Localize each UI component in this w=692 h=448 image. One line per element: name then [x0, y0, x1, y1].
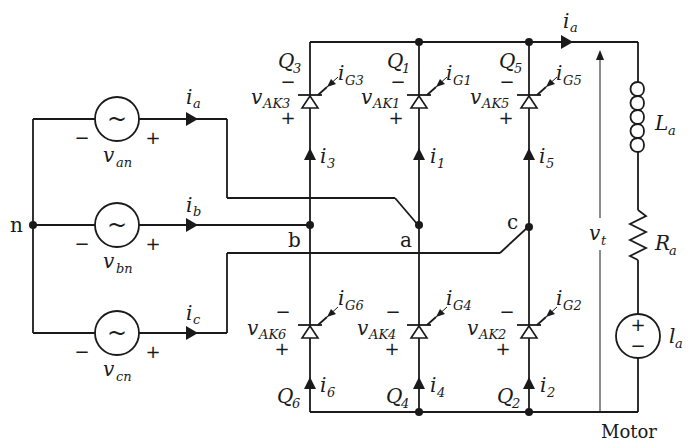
sine-wave-icon: ~ — [107, 105, 127, 133]
node-c-dot — [525, 223, 533, 231]
thyristor-q5: Q 5 i G5 − v AK5 + i 5 — [470, 49, 582, 171]
source-vcn: ~ − + v cn i c — [74, 301, 201, 384]
thyristor-icon — [411, 326, 427, 338]
thyristor-icon — [521, 96, 537, 108]
svg-text:G2: G2 — [563, 298, 582, 313]
svg-text:i: i — [556, 61, 562, 85]
svg-text:R: R — [654, 231, 670, 255]
svg-text:v: v — [103, 143, 115, 167]
svg-text:a: a — [675, 336, 683, 351]
svg-text:i: i — [446, 61, 452, 85]
svg-text:Q: Q — [497, 384, 513, 408]
sine-wave-icon: ~ — [107, 211, 127, 239]
svg-text:+: + — [495, 338, 510, 359]
svg-text:−: − — [275, 301, 290, 322]
junction-dot — [415, 38, 423, 46]
svg-text:i: i — [320, 144, 326, 168]
current-arrow-icon — [186, 326, 198, 340]
svg-text:+: + — [498, 107, 513, 128]
svg-text:c: c — [193, 312, 201, 327]
neutral-node-label: n — [10, 213, 23, 237]
svg-text:4: 4 — [436, 385, 445, 400]
current-arrow-icon — [523, 377, 535, 389]
svg-text:i: i — [540, 373, 546, 397]
svg-text:−: − — [74, 341, 89, 362]
sine-wave-icon: ~ — [107, 319, 127, 347]
source-vbn: ~ − + v bn i b — [74, 193, 201, 276]
svg-text:i: i — [338, 286, 344, 310]
svg-text:v: v — [361, 85, 373, 109]
svg-text:Q: Q — [386, 384, 402, 408]
node-b-dot — [306, 221, 314, 229]
node-c-label: c — [507, 210, 518, 234]
node-a-dot — [415, 221, 423, 229]
svg-text:−: − — [74, 233, 89, 254]
svg-text:G5: G5 — [563, 73, 582, 88]
svg-text:a: a — [669, 243, 677, 258]
svg-text:Q: Q — [499, 49, 515, 73]
svg-text:−: − — [385, 301, 400, 322]
svg-text:−: − — [499, 71, 514, 92]
svg-text:G4: G4 — [453, 298, 472, 313]
svg-text:+: + — [145, 233, 160, 254]
svg-text:2: 2 — [546, 385, 555, 400]
svg-text:v: v — [103, 249, 115, 273]
thyristor-icon — [302, 96, 318, 108]
svg-text:bn: bn — [116, 261, 133, 276]
svg-text:3: 3 — [327, 156, 335, 171]
svg-text:−: − — [499, 301, 514, 322]
svg-text:i: i — [338, 61, 344, 85]
svg-text:+: + — [274, 338, 289, 359]
current-arrow-icon — [186, 218, 198, 232]
svg-text:+: + — [630, 314, 645, 335]
svg-text:G6: G6 — [345, 298, 364, 313]
current-arrow-icon — [413, 377, 425, 389]
svg-text:i: i — [563, 9, 569, 33]
thyristor-icon — [521, 326, 537, 338]
voltage-arrow-icon — [596, 50, 604, 60]
current-arrow-icon — [304, 148, 316, 160]
thyristor-q1: Q 1 i G1 − v AK1 + i 1 — [361, 49, 472, 171]
svg-text:v: v — [357, 316, 369, 340]
junction-dot — [525, 408, 533, 416]
thyristor-q3: Q 3 i G3 − v AK3 + i 3 — [251, 49, 364, 171]
source-van: ~ − + v an i a — [74, 85, 200, 170]
thyristor-q6: i G6 − v AK6 + i 6 Q 6 — [247, 286, 364, 411]
thyristor-icon — [411, 96, 427, 108]
svg-text:Q: Q — [387, 49, 403, 73]
svg-text:b: b — [193, 204, 201, 219]
svg-text:+: + — [145, 341, 160, 362]
circuit-diagram: n ~ − + v an i a ~ − + v bn i b ~ − + v … — [0, 0, 692, 448]
svg-text:v: v — [251, 85, 263, 109]
svg-text:an: an — [116, 155, 132, 170]
svg-text:5: 5 — [514, 61, 522, 76]
svg-text:i: i — [446, 286, 452, 310]
current-arrow-icon — [523, 148, 535, 160]
junction-dot — [415, 408, 423, 416]
svg-text:a: a — [570, 20, 578, 35]
inductor-icon — [631, 82, 645, 152]
thyristor-q2: i G2 − v AK2 + i 2 Q 2 — [467, 286, 582, 411]
svg-text:5: 5 — [546, 156, 554, 171]
current-arrow-icon — [186, 112, 198, 126]
circuit-schematic: n ~ − + v an i a ~ − + v bn i b ~ − + v … — [0, 0, 692, 448]
thyristor-q4: i G4 − v AK4 + i 4 Q 4 — [357, 286, 472, 411]
svg-text:t: t — [601, 233, 607, 248]
svg-text:6: 6 — [327, 385, 335, 400]
resistor-icon — [630, 210, 646, 260]
node-a-label: a — [400, 228, 412, 252]
svg-text:i: i — [186, 85, 192, 109]
svg-text:i: i — [539, 144, 545, 168]
svg-text:1: 1 — [437, 156, 445, 171]
svg-text:v: v — [247, 316, 259, 340]
neutral-node-dot — [29, 221, 37, 229]
current-arrow-icon — [413, 148, 425, 160]
svg-text:cn: cn — [116, 369, 132, 384]
svg-text:v: v — [467, 316, 479, 340]
svg-text:i: i — [186, 301, 192, 325]
svg-text:−: − — [280, 71, 295, 92]
svg-text:G1: G1 — [453, 73, 472, 88]
svg-text:v: v — [470, 85, 482, 109]
svg-text:+: + — [145, 127, 160, 148]
svg-text:−: − — [390, 71, 405, 92]
